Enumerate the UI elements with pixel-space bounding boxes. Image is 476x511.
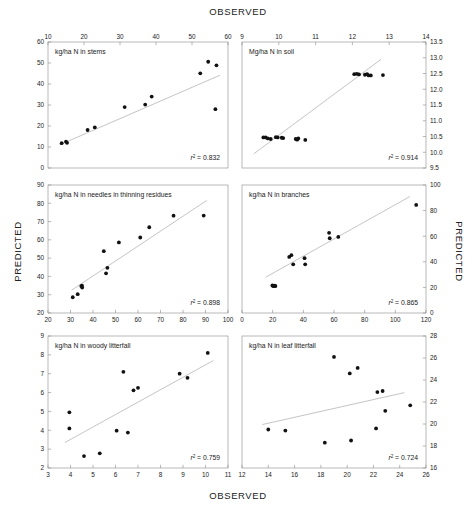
y-tick-label: 24 [430, 376, 438, 383]
y-tick-label: 40 [430, 258, 438, 265]
x-tick-label: 7 [136, 471, 140, 478]
data-point [60, 141, 64, 145]
y-tick-label: 10.0 [430, 149, 443, 156]
data-point [283, 429, 287, 433]
panel-frame [242, 42, 426, 168]
x-tick-label: 26 [422, 471, 430, 478]
data-point [289, 253, 293, 257]
x-tick-label: 100 [390, 316, 401, 323]
data-point [76, 292, 80, 296]
x-tick-label: 9 [181, 471, 185, 478]
data-point [106, 266, 110, 270]
y-tick-label: 12.0 [430, 86, 443, 93]
data-point [186, 376, 190, 380]
data-point [215, 63, 219, 67]
y-tick-label: 8 [40, 351, 44, 358]
data-point [303, 138, 307, 142]
data-point [356, 366, 360, 370]
data-point [375, 390, 379, 394]
x-tick-label: 16 [291, 471, 299, 478]
regression-line [262, 393, 404, 425]
y-tick-label: 20 [37, 122, 45, 129]
x-tick-label: 14 [265, 471, 273, 478]
regression-line [65, 361, 214, 443]
data-point [323, 441, 327, 445]
data-point [198, 71, 202, 75]
data-point [349, 439, 353, 443]
r-squared-annotation: r2 = 0.914 [388, 154, 418, 162]
panel-soil: 910111213149.510.010.511.011.512.012.513… [240, 33, 443, 172]
x-tick-label: 10 [202, 471, 210, 478]
y-tick-label: 30 [37, 291, 45, 298]
regression-line [60, 75, 221, 145]
y-tick-label: 11.5 [430, 101, 442, 108]
data-point [102, 249, 106, 253]
y-tick-label: 90 [37, 181, 45, 188]
data-point [266, 428, 270, 432]
y-tick-label: 80 [37, 200, 45, 207]
data-point [281, 136, 285, 140]
x-tick-label: 20 [269, 316, 277, 323]
x-tick-label: 0 [240, 316, 244, 323]
y-tick-label: 12.5 [430, 70, 443, 77]
panel-leaf-litterfall: 121416182022242616182022242628kg/ha N in… [238, 332, 437, 478]
data-point [303, 262, 307, 266]
x-tick-label: 20 [344, 471, 352, 478]
data-point [147, 225, 151, 229]
y-tick-label: 70 [37, 218, 45, 225]
r-squared-annotation: r2 = 0.898 [190, 299, 220, 307]
regression-line [254, 59, 381, 154]
data-point [178, 372, 182, 376]
y-tick-label: 20 [37, 309, 45, 316]
data-point [274, 284, 278, 288]
x-tick-label: 20 [44, 316, 52, 323]
y-tick-label: 50 [37, 59, 45, 66]
data-point [214, 107, 218, 111]
data-point [136, 386, 140, 390]
x-tick-label: 3 [46, 471, 50, 478]
panel-stems: 1020304050600102030405060kg/ha N in stem… [37, 33, 232, 172]
x-tick-label: 4 [69, 471, 73, 478]
r-squared-annotation: r2 = 0.724 [388, 454, 418, 462]
data-point [86, 128, 90, 132]
x-tick-label: 80 [361, 316, 369, 323]
data-point [172, 214, 176, 218]
data-point [65, 141, 69, 145]
y-tick-label: 100 [430, 181, 441, 188]
top-axis-title-observed: OBSERVED [0, 6, 476, 17]
panel-title: kg/ha N in needles in thinning residues [55, 191, 172, 199]
data-point [348, 372, 352, 376]
y-tick-label: 20 [430, 284, 438, 291]
panel-needles-thinning-residues: 20304050607080901002030405060708090kg/ha… [37, 181, 234, 323]
bottom-axis-title-observed: OBSERVED [0, 490, 476, 501]
y-tick-label: 40 [37, 273, 45, 280]
y-tick-label: 22 [430, 398, 438, 405]
x-tick-label: 90 [202, 316, 210, 323]
y-tick-label: 28 [430, 332, 438, 339]
x-tick-label: 10 [44, 33, 52, 40]
panel-frame [242, 185, 426, 313]
x-tick-label: 30 [116, 33, 124, 40]
data-point [71, 295, 75, 299]
y-tick-label: 2 [40, 464, 44, 471]
y-tick-label: 7 [40, 370, 44, 377]
x-tick-label: 60 [134, 316, 142, 323]
x-tick-label: 30 [67, 316, 75, 323]
y-tick-label: 11.0 [430, 117, 442, 124]
x-tick-label: 100 [223, 316, 234, 323]
y-tick-label: 10 [37, 143, 45, 150]
y-tick-label: 80 [430, 207, 438, 214]
data-point [328, 236, 332, 240]
y-tick-label: 13.5 [430, 38, 443, 45]
x-tick-label: 80 [179, 316, 187, 323]
x-tick-label: 14 [422, 33, 430, 40]
x-tick-label: 20 [80, 33, 88, 40]
y-tick-label: 0 [40, 164, 44, 171]
data-point [67, 427, 71, 431]
figure-panel-grid: OBSERVED OBSERVED PREDICTED PREDICTED 10… [0, 0, 476, 511]
y-tick-label: 13.0 [430, 54, 443, 61]
y-tick-label: 9.5 [430, 164, 439, 171]
y-tick-label: 5 [40, 408, 44, 415]
data-point [357, 73, 361, 77]
data-point [115, 429, 119, 433]
